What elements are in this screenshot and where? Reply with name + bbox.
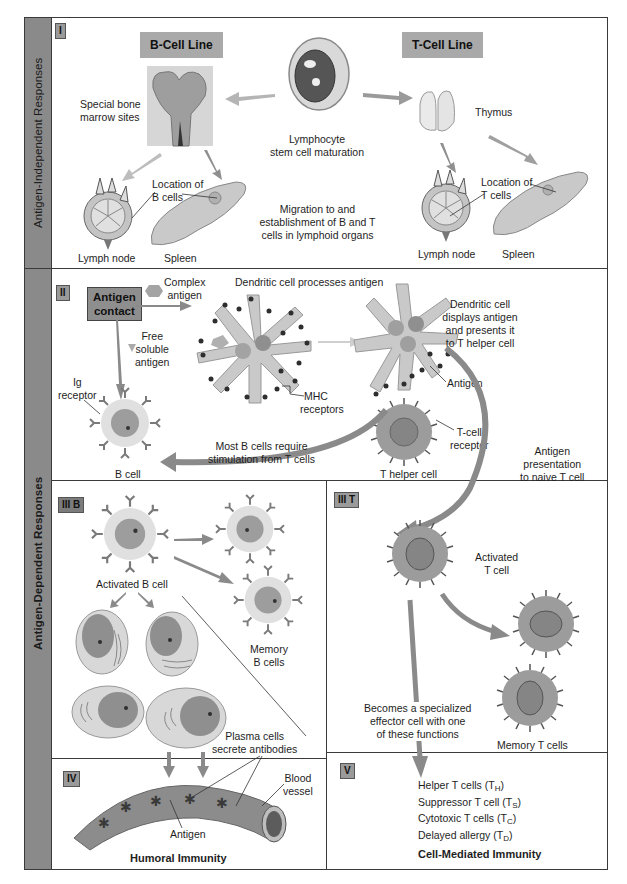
function-cytotoxic: Cytotoxic T cells (TC) [418, 812, 521, 829]
function-helper: Helper T cells (TH) [418, 779, 521, 796]
antigen-contact-box: Antigen contact [87, 287, 142, 321]
memory-t-cell-1 [510, 588, 582, 660]
sidebar-label-independent: Antigen-Independent Responses [32, 58, 44, 228]
memory-b-cell-1 [216, 495, 284, 563]
divider-3t-5 [326, 752, 607, 753]
svg-text:✱: ✱ [150, 793, 162, 809]
arrow-bone-to-spleen [204, 150, 224, 180]
becomes-specialized-label: Becomes a specialized effector cell with… [364, 702, 471, 741]
activated-t-cell [384, 518, 456, 590]
activated-b-cell [92, 496, 168, 572]
arrow-plasma-to-vessel-1 [163, 752, 175, 778]
activated-t-cell-label: Activated T cell [475, 551, 518, 577]
arrow-stem-to-bone [225, 88, 275, 108]
section-badge-3t: III T [334, 492, 359, 508]
b-cell-label: B cell [115, 468, 141, 481]
blood-vessel-label: Blood vessel [283, 772, 313, 798]
thymus-image [416, 86, 458, 136]
thymus-label: Thymus [475, 106, 512, 119]
b-cell [90, 388, 160, 458]
bone-marrow-label: Special bone marrow sites [80, 98, 141, 124]
lymph-node-left-label: Lymph node [78, 252, 135, 265]
migration-label: Migration to and establishment of B and … [255, 203, 380, 242]
arrow-activated-to-memory-1 [174, 534, 214, 546]
function-suppressor: Suppressor T cell (TS) [418, 796, 521, 813]
function-delayed-allergy: Delayed allergy (TD) [418, 829, 521, 846]
divider-section-1-2 [25, 268, 607, 269]
arrow-activated-to-plasma-1 [110, 592, 126, 608]
leader-mhc [282, 384, 304, 398]
leader-ig-receptor [84, 400, 104, 416]
ig-receptor-label: Ig receptor [58, 376, 97, 402]
svg-text:✱: ✱ [98, 815, 110, 831]
spleen-right-label: Spleen [502, 248, 535, 261]
free-soluble-antigen-label: Free soluble antigen [135, 330, 169, 369]
svg-text:✱: ✱ [120, 799, 132, 815]
bone-marrow-image [147, 66, 213, 146]
arrow-activated-to-effector [406, 600, 430, 780]
lymphocyte-stem-cell [287, 36, 351, 112]
leader-t-cells [448, 180, 558, 220]
b-cell-line-title: B-Cell Line [140, 32, 223, 58]
section-badge-1: I [55, 23, 66, 39]
memory-t-cells-label: Memory T cells [497, 739, 568, 752]
leader-plasma-antibodies [184, 756, 264, 808]
t-cell-line-title: T-Cell Line [402, 32, 483, 58]
b-cells-require-label: Most B cells require stimulation from T … [208, 440, 315, 466]
section-badge-3b: III B [58, 497, 84, 513]
cell-mediated-immunity-title: Cell-Mediated Immunity [418, 848, 541, 861]
complex-antigen-icon [145, 285, 163, 297]
arrow-stem-to-thymus [363, 88, 413, 108]
memory-t-cell-2 [494, 662, 566, 734]
antigen-label-section-4: Antigen [170, 828, 206, 841]
section-badge-2: II [56, 285, 70, 301]
sidebar-label-dependent: Antigen-Dependent Responses [32, 477, 44, 650]
antigen-presentation-label: Antigen presentation to naive T cell [520, 445, 584, 484]
leader-activated-b-diagonal [182, 596, 307, 738]
leader-b-cells [130, 190, 220, 220]
arrow-thymus-to-spleen [488, 135, 538, 167]
dendritic-displays-label: Dendritic cell displays antigen and pres… [430, 298, 530, 350]
leader-antigen-4 [170, 800, 184, 828]
arrow-activated-to-plasma-2 [138, 592, 154, 608]
spleen-left-label: Spleen [164, 252, 197, 265]
arrow-activated-to-memory-t [440, 592, 510, 642]
activated-b-cell-label: Activated B cell [96, 578, 168, 591]
divider-3b-3t [326, 480, 327, 869]
lymph-node-right-label: Lymph node [418, 248, 475, 261]
section-badge-5: V [340, 763, 355, 779]
arrow-activated-to-memory-2 [174, 556, 234, 586]
arrow-contact-to-dendritic [136, 300, 192, 312]
stem-cell-label: Lymphocyte stem cell maturation [262, 133, 372, 159]
humoral-immunity-title: Humoral Immunity [130, 852, 227, 865]
arrow-presentation-curve [390, 348, 500, 538]
t-cell-functions-list: Helper T cells (TH) Suppressor T cell (T… [418, 779, 521, 845]
